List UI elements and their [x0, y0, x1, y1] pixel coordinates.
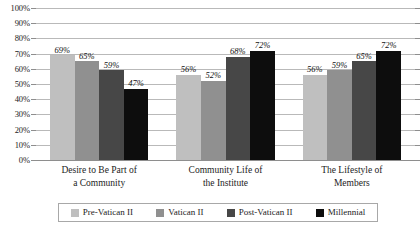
- y-tick-label: 60%: [15, 65, 30, 74]
- plot-wrapper: 100%90%80%70%60%50%40%30%20%10%0% 69%65%…: [0, 0, 419, 170]
- bar[interactable]: [226, 57, 251, 160]
- bar-value-label: 72%: [381, 41, 397, 50]
- bar-group: 69%65%59%47%: [36, 8, 162, 160]
- bar-value-label: 59%: [104, 61, 120, 70]
- y-tick-label: 50%: [15, 80, 30, 89]
- bar-slot: 65%: [75, 8, 100, 160]
- legend-swatch-icon: [156, 209, 164, 217]
- bar[interactable]: [176, 75, 201, 160]
- bar-groups: 69%65%59%47%56%52%68%72%56%59%65%72%: [36, 8, 415, 160]
- legend-item[interactable]: Pre-Vatican II: [71, 208, 133, 217]
- legend-item[interactable]: Millennial: [316, 208, 366, 217]
- axis-tick-mark: [415, 130, 420, 131]
- category-label-line: Members: [289, 177, 415, 190]
- bar[interactable]: [250, 51, 275, 160]
- bar[interactable]: [124, 89, 149, 160]
- legend-label: Post-Vatican II: [239, 208, 293, 217]
- bar-group-inner: 56%59%65%72%: [303, 8, 402, 160]
- axis-tick-mark: [415, 145, 420, 146]
- bar[interactable]: [352, 61, 377, 160]
- bar-group: 56%52%68%72%: [162, 8, 288, 160]
- chart-legend: Pre-Vatican IIVatican IIPost-Vatican IIM…: [58, 203, 378, 222]
- legend-label: Pre-Vatican II: [83, 208, 133, 217]
- gridline: [36, 160, 415, 161]
- category-label: Desire to Be Part ofa Community: [36, 164, 162, 198]
- bar-slot: 69%: [50, 8, 75, 160]
- category-label-line: Desire to Be Part of: [36, 164, 162, 177]
- bar-slot: 56%: [303, 8, 328, 160]
- bar-value-label: 69%: [54, 46, 70, 55]
- y-tick-label: 40%: [15, 95, 30, 104]
- bar-value-label: 65%: [79, 52, 95, 61]
- bar-value-label: 56%: [181, 65, 197, 74]
- y-tick-label: 90%: [15, 19, 30, 28]
- axis-tick-mark: [415, 69, 420, 70]
- category-label-line: the Institute: [162, 177, 288, 190]
- bar-group: 56%59%65%72%: [289, 8, 415, 160]
- axis-tick-mark: [415, 38, 420, 39]
- y-tick-label: 20%: [15, 125, 30, 134]
- category-label-line: a Community: [36, 177, 162, 190]
- plot-area: 69%65%59%47%56%52%68%72%56%59%65%72%: [36, 8, 415, 160]
- bar-slot: 59%: [327, 8, 352, 160]
- bar-value-label: 68%: [230, 47, 246, 56]
- category-label-line: The Lifestyle of: [289, 164, 415, 177]
- axis-tick-mark: [415, 8, 420, 9]
- legend-swatch-icon: [316, 209, 324, 217]
- bar-value-label: 59%: [332, 61, 348, 70]
- bar-slot: 72%: [376, 8, 401, 160]
- bar[interactable]: [50, 55, 75, 160]
- bar[interactable]: [327, 70, 352, 160]
- y-tick-label: 70%: [15, 49, 30, 58]
- axis-tick-mark: [415, 54, 420, 55]
- bar-slot: 47%: [124, 8, 149, 160]
- bar-slot: 56%: [176, 8, 201, 160]
- y-tick-label: 80%: [15, 34, 30, 43]
- legend-swatch-icon: [227, 209, 235, 217]
- legend-label: Vatican II: [168, 208, 203, 217]
- bar[interactable]: [376, 51, 401, 160]
- bar-value-label: 47%: [128, 79, 144, 88]
- bar-value-label: 72%: [255, 41, 271, 50]
- bar[interactable]: [201, 81, 226, 160]
- category-label-line: Community Life of: [162, 164, 288, 177]
- category-label: The Lifestyle ofMembers: [289, 164, 415, 198]
- axis-tick-mark: [415, 99, 420, 100]
- bar-value-label: 52%: [205, 71, 221, 80]
- legend-item[interactable]: Vatican II: [156, 208, 203, 217]
- legend-label: Millennial: [328, 208, 366, 217]
- y-tick-label: 0%: [19, 156, 30, 165]
- bar-value-label: 56%: [307, 65, 323, 74]
- axis-tick-mark: [31, 160, 36, 161]
- bar-group-inner: 69%65%59%47%: [50, 8, 149, 160]
- axis-tick-mark: [415, 84, 420, 85]
- y-axis: 100%90%80%70%60%50%40%30%20%10%0%: [0, 0, 34, 170]
- axis-tick-mark: [415, 114, 420, 115]
- legend-swatch-icon: [71, 209, 79, 217]
- axis-tick-mark: [415, 23, 420, 24]
- bar-slot: 52%: [201, 8, 226, 160]
- y-tick-label: 30%: [15, 110, 30, 119]
- bar-value-label: 65%: [356, 52, 372, 61]
- bar[interactable]: [75, 61, 100, 160]
- y-tick-label: 100%: [11, 4, 30, 13]
- category-axis: Desire to Be Part ofa CommunityCommunity…: [36, 164, 415, 198]
- bar[interactable]: [99, 70, 124, 160]
- legend-item[interactable]: Post-Vatican II: [227, 208, 293, 217]
- bar-group-inner: 56%52%68%72%: [176, 8, 275, 160]
- bar-slot: 72%: [250, 8, 275, 160]
- bar-slot: 65%: [352, 8, 377, 160]
- category-label: Community Life ofthe Institute: [162, 164, 288, 198]
- bar[interactable]: [303, 75, 328, 160]
- bar-slot: 59%: [99, 8, 124, 160]
- bar-slot: 68%: [226, 8, 251, 160]
- y-tick-label: 10%: [15, 141, 30, 150]
- axis-tick-mark: [415, 160, 420, 161]
